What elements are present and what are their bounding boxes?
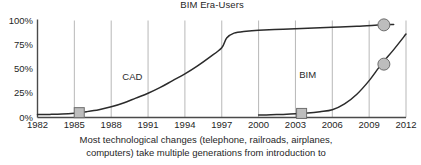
y-tick-100: 100% <box>0 16 33 26</box>
y-tick-75: 75% <box>0 40 33 50</box>
marker-square-bim <box>297 108 307 118</box>
x-tick-1988: 1988 <box>91 120 131 130</box>
x-tick-1997: 1997 <box>202 120 242 130</box>
x-tick-1985: 1985 <box>54 120 94 130</box>
marker-square-cad <box>74 108 84 118</box>
caption-line-1: Most technological changes (telephone, r… <box>0 133 412 146</box>
x-tick-2012: 2012 <box>386 120 421 130</box>
x-tick-2009: 2009 <box>349 120 389 130</box>
series-line-cad <box>38 24 394 114</box>
marker-circle-cad <box>378 19 390 31</box>
annotation-cad: CAD <box>122 71 142 82</box>
x-tick-2006: 2006 <box>312 120 352 130</box>
y-tick-25: 25% <box>0 88 33 98</box>
x-tick-2000: 2000 <box>239 120 279 130</box>
figure-caption: Most technological changes (telephone, r… <box>0 133 412 159</box>
annotation-bim: BIM <box>299 69 316 80</box>
x-tick-2003: 2003 <box>275 120 315 130</box>
caption-line-2: computers) take multiple generations fro… <box>0 146 412 159</box>
marker-circle-bim <box>378 58 390 70</box>
y-tick-50: 50% <box>0 64 33 74</box>
x-tick-1982: 1982 <box>18 120 58 130</box>
x-tick-1994: 1994 <box>165 120 205 130</box>
plot-area <box>0 0 412 126</box>
x-tick-1991: 1991 <box>128 120 168 130</box>
chart-svg <box>0 0 412 126</box>
